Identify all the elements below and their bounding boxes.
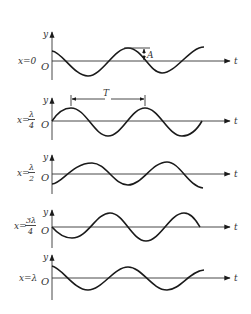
amplitude-label: A <box>146 50 154 60</box>
origin-label: O <box>41 225 49 236</box>
t-axis-label: t <box>234 169 238 179</box>
panel-label-prefix: x= <box>17 168 30 178</box>
panel-label: x=0 <box>18 56 37 66</box>
t-axis-label: t <box>234 273 238 283</box>
origin-label: O <box>41 172 49 183</box>
origin-label: O <box>41 61 49 72</box>
panel-label-numerator: λ <box>28 110 34 119</box>
t-axis-label: t <box>234 116 238 126</box>
panel-label-numerator: 3λ <box>26 216 36 225</box>
panel-x-three-quarter-lambda: y t O x= 3λ 4 <box>14 207 238 248</box>
y-axis-label: y <box>42 95 49 105</box>
panel-label: x=λ <box>19 273 37 283</box>
wave-curve <box>52 162 203 188</box>
origin-label: O <box>41 119 49 130</box>
panel-label-prefix: x= <box>14 221 27 231</box>
panel-x-lambda: y t O x=λ <box>19 252 238 300</box>
panel-label-denominator: 4 <box>27 227 33 236</box>
panel-label-prefix: x= <box>17 115 30 125</box>
panel-x-half-lambda: y t O x= λ 2 <box>17 152 238 194</box>
panel-label-numerator: λ <box>28 163 34 172</box>
wave-curve <box>52 47 204 76</box>
y-axis-label: y <box>42 29 49 39</box>
wave-curve <box>52 108 202 136</box>
y-axis-label: y <box>42 207 49 217</box>
panel-x-quarter-lambda: y t O x= λ 4 T <box>17 88 238 140</box>
t-axis-label: t <box>234 56 238 66</box>
origin-label: O <box>41 276 49 287</box>
panel-label-denominator: 2 <box>28 174 34 183</box>
y-axis-label: y <box>42 252 49 262</box>
t-axis-label: t <box>234 222 238 232</box>
panel-label-denominator: 4 <box>28 121 34 130</box>
wave-vibration-diagram: y t O x=0 A y t O x= λ 4 T y t O x= λ <box>0 0 251 314</box>
y-axis-label: y <box>42 152 49 162</box>
period-label: T <box>103 88 110 98</box>
panel-x0: y t O x=0 A <box>18 29 238 80</box>
